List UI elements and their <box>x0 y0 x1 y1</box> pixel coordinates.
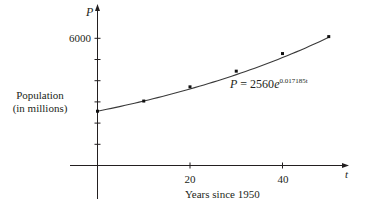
x-tick-label-40: 40 <box>278 173 290 185</box>
data-points <box>96 35 330 113</box>
equation-main: = 2560 <box>237 77 274 91</box>
x-axis-symbol: t <box>345 168 349 180</box>
data-point <box>96 110 99 113</box>
y-axis-symbol: P <box>85 5 94 19</box>
y-tick-label-6000: 6000 <box>69 32 92 44</box>
x-tick-label-20: 20 <box>185 173 197 185</box>
model-equation: P = 2560e0.017185t <box>229 77 308 91</box>
data-point <box>142 100 145 103</box>
data-point <box>281 52 284 55</box>
y-axis-arrow-icon <box>95 4 100 11</box>
y-axis-label-line2: (in millions) <box>13 102 68 115</box>
x-axis-label: Years since 1950 <box>185 188 260 200</box>
data-point <box>189 85 192 88</box>
y-axis-label-line1: Population <box>16 89 64 101</box>
equation-exponent: 0.017185t <box>279 77 307 85</box>
data-point <box>327 35 330 38</box>
exponential-model-curve <box>98 37 329 111</box>
data-point <box>235 70 238 73</box>
population-chart: P 6000 20 40 t Population (in millions) … <box>0 0 365 209</box>
axes <box>70 4 349 199</box>
